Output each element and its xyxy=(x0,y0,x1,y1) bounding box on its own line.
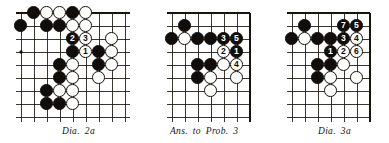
go-stone-black-move-3: 3 xyxy=(217,32,230,45)
go-stone-white xyxy=(105,45,118,58)
go-stone-black xyxy=(40,19,53,32)
go-stone-black xyxy=(53,19,66,32)
go-board-dia-3a: 7534126 xyxy=(292,13,372,119)
go-stone-black-move-5: 5 xyxy=(350,19,363,32)
go-stone-black xyxy=(324,58,337,71)
go-stone-black xyxy=(92,45,105,58)
caption-word: Ans. xyxy=(170,126,188,136)
go-stone-black xyxy=(178,19,191,32)
go-stone-black xyxy=(285,32,298,45)
go-stone-black xyxy=(92,58,105,71)
move-number: 4 xyxy=(231,59,242,70)
go-stone-white-move-4: 4 xyxy=(350,32,363,45)
go-stone-white xyxy=(40,6,53,19)
go-stone-white-move-1: 1 xyxy=(79,45,92,58)
go-stone-black xyxy=(191,58,204,71)
go-stone-black xyxy=(204,58,217,71)
go-stone-black-move-1: 1 xyxy=(230,45,243,58)
go-stone-black xyxy=(191,71,204,84)
go-stone-white xyxy=(178,32,191,45)
go-stone-black xyxy=(311,58,324,71)
diagram-caption-dia-3a: Dia.3a xyxy=(318,126,351,136)
move-number: 4 xyxy=(351,33,362,44)
go-stone-black-move-1: 1 xyxy=(324,45,337,58)
move-number: 1 xyxy=(325,46,336,57)
go-stone-white xyxy=(79,19,92,32)
go-stone-black xyxy=(27,6,40,19)
go-stone-white-move-6: 6 xyxy=(350,45,363,58)
go-stone-black xyxy=(53,71,66,84)
move-number: 5 xyxy=(231,33,242,44)
go-stone-white xyxy=(53,6,66,19)
go-stone-white xyxy=(53,84,66,97)
go-stone-white xyxy=(324,84,337,97)
move-number: 5 xyxy=(351,20,362,31)
go-stone-white-move-3: 3 xyxy=(79,32,92,45)
go-stone-white xyxy=(66,19,79,32)
move-number: 2 xyxy=(218,46,229,57)
go-stone-black xyxy=(66,45,79,58)
go-stone-black xyxy=(165,32,178,45)
go-stone-black xyxy=(40,97,53,110)
go-stone-white-move-2: 2 xyxy=(337,45,350,58)
go-stone-black xyxy=(53,97,66,110)
go-stone-white-move-2: 2 xyxy=(217,45,230,58)
go-stone-white xyxy=(217,58,230,71)
caption-word: 2a xyxy=(85,126,95,136)
go-stone-black xyxy=(53,58,66,71)
go-stone-white xyxy=(105,32,118,45)
go-stone-white xyxy=(204,71,217,84)
move-number: 6 xyxy=(351,46,362,57)
go-stone-black xyxy=(14,19,27,32)
move-number: 3 xyxy=(80,33,91,44)
go-board-dia-2a: 231 xyxy=(21,13,127,119)
go-stone-white xyxy=(230,71,243,84)
go-stone-black xyxy=(311,32,324,45)
caption-word: 3 xyxy=(233,126,238,136)
caption-word: Prob. xyxy=(206,126,229,136)
go-stone-black xyxy=(66,6,79,19)
move-number: 1 xyxy=(231,46,242,57)
go-stone-white xyxy=(92,71,105,84)
caption-word: 3a xyxy=(341,126,351,136)
go-stone-white xyxy=(204,84,217,97)
go-stone-white xyxy=(337,58,350,71)
go-diagram-sheet: 231Dia.2a35214Ans.toProb.37534126Dia.3a xyxy=(0,0,389,143)
go-stone-white xyxy=(324,71,337,84)
move-number: 7 xyxy=(338,20,349,31)
caption-word: Dia. xyxy=(62,126,80,136)
diagram-caption-dia-2a: Dia.2a xyxy=(62,126,95,136)
go-stone-black xyxy=(324,32,337,45)
go-board-ans-to-prob-3: 35214 xyxy=(172,13,252,119)
go-stone-black xyxy=(311,71,324,84)
move-number: 3 xyxy=(338,33,349,44)
go-stone-white xyxy=(66,84,79,97)
go-stone-white xyxy=(79,6,92,19)
go-stone-black-move-2: 2 xyxy=(66,32,79,45)
go-stone-black-move-3: 3 xyxy=(337,32,350,45)
go-stone-white xyxy=(66,71,79,84)
go-stone-black xyxy=(298,19,311,32)
move-number: 2 xyxy=(338,46,349,57)
go-stone-white xyxy=(105,58,118,71)
move-number: 2 xyxy=(67,33,78,44)
go-stone-white xyxy=(66,58,79,71)
go-stone-white xyxy=(66,97,79,110)
go-stone-black-move-7: 7 xyxy=(337,19,350,32)
caption-word: to xyxy=(193,126,201,136)
go-stone-black xyxy=(204,32,217,45)
diagram-caption-ans-to-prob-3: Ans.toProb.3 xyxy=(170,126,238,136)
go-stone-white-move-4: 4 xyxy=(230,58,243,71)
go-stone-white xyxy=(350,71,363,84)
move-number: 3 xyxy=(218,33,229,44)
go-stone-white xyxy=(298,32,311,45)
go-stone-black xyxy=(191,32,204,45)
go-stone-black-move-5: 5 xyxy=(230,32,243,45)
move-number: 1 xyxy=(80,46,91,57)
go-stone-black xyxy=(40,84,53,97)
caption-word: Dia. xyxy=(318,126,336,136)
